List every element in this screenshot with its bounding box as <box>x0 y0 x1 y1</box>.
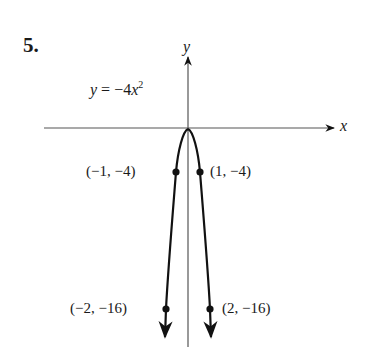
point-label: (1, −4) <box>210 163 251 180</box>
y-axis-label: y <box>183 38 190 56</box>
point-label: (2, −16) <box>222 300 270 317</box>
point-label: (−2, −16) <box>70 300 127 317</box>
point-neg2-neg16 <box>162 305 169 312</box>
point-neg1-neg4 <box>172 168 179 175</box>
parabola-left-branch <box>165 129 188 337</box>
point-1-neg4 <box>196 168 203 175</box>
point-2-neg16 <box>206 305 213 312</box>
point-label: (−1, −4) <box>86 163 135 180</box>
x-axis-label: x <box>340 117 347 135</box>
parabola-right-branch <box>188 129 211 337</box>
